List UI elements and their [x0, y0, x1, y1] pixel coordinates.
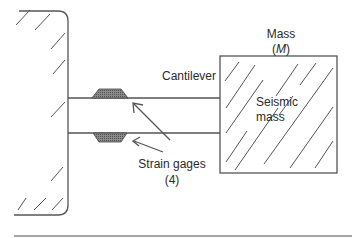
- mass-symbol-label: (M): [272, 42, 290, 56]
- strain-gage-top: [92, 89, 128, 98]
- seismic-mass-label-line2: mass: [256, 110, 285, 124]
- wall-hatching: [16, 10, 65, 210]
- fixed-wall: [14, 10, 68, 215]
- gage-pointer-arrows: [133, 103, 170, 152]
- strain-gages-label: Strain gages: [138, 157, 205, 171]
- cantilever-label: Cantilever: [162, 69, 216, 83]
- seismic-mass-label-line1: Seismic: [256, 95, 298, 109]
- cantilever-beam: [68, 98, 220, 133]
- accelerometer-diagram: Mass (M) Cantilever Seismic mass Strain …: [0, 0, 352, 238]
- mass-label: Mass: [267, 27, 296, 41]
- strain-gage-bottom: [93, 133, 127, 142]
- strain-gages-count: (4): [165, 173, 180, 187]
